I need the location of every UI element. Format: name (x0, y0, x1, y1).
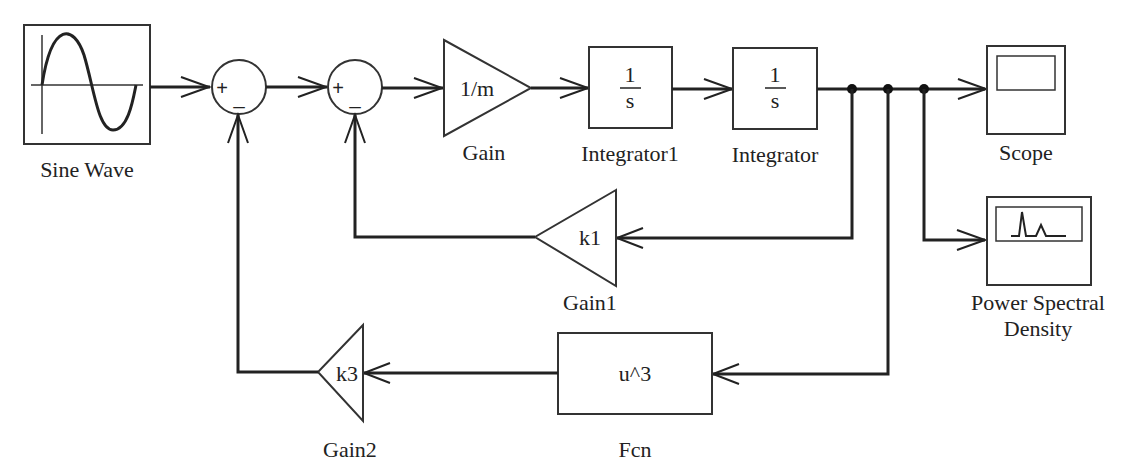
fcn-block[interactable]: u^3 (558, 333, 712, 414)
sum1-plus-sign: + (216, 77, 228, 99)
fcn-label: Fcn (619, 437, 652, 462)
fcn-expression: u^3 (619, 361, 651, 386)
wire-gain1-to-sum2 (345, 115, 535, 237)
scope-block[interactable] (987, 46, 1065, 134)
wire-integrator1-to-integrator (672, 79, 732, 99)
integrator1-numerator: 1 (625, 62, 636, 87)
block-diagram-canvas: Sine Wave + _ + _ 1/m Gain 1 (0, 0, 1138, 467)
wire-gain-to-integrator1 (531, 78, 588, 98)
psd-block[interactable] (987, 197, 1091, 285)
sum2-plus-sign: + (332, 77, 344, 99)
integrator-denominator: s (771, 88, 780, 113)
integrator-numerator: 1 (770, 62, 781, 87)
gain-label: Gain (463, 140, 506, 165)
sine-wave-block[interactable] (24, 25, 150, 144)
integrator-block[interactable]: 1 s (733, 48, 817, 129)
psd-label-line1: Power Spectral (971, 290, 1105, 315)
wire-gain2-to-sum1 (228, 115, 318, 372)
scope-label: Scope (999, 140, 1053, 165)
gain1-block[interactable]: k1 (535, 190, 616, 286)
sum2-minus-sign: _ (348, 86, 361, 109)
gain-value: 1/m (460, 76, 494, 101)
integrator1-denominator: s (626, 88, 635, 113)
sum2-block[interactable]: + _ (328, 60, 382, 114)
wire-sum1-to-sum2 (266, 77, 327, 97)
gain2-block[interactable]: k3 (318, 325, 363, 421)
gain1-value: k1 (579, 225, 601, 250)
integrator1-block[interactable]: 1 s (589, 47, 672, 128)
gain2-label: Gain2 (323, 437, 377, 462)
sum1-block[interactable]: + _ (212, 60, 266, 114)
psd-label-line2: Density (1004, 316, 1072, 341)
wire-sine-to-sum1 (150, 77, 210, 97)
gain-block[interactable]: 1/m (444, 40, 531, 136)
wire-sum2-to-gain (382, 78, 443, 98)
wire-integrator-to-scope (817, 79, 986, 99)
gain2-value: k3 (336, 361, 358, 386)
gain1-label: Gain1 (563, 290, 617, 315)
wire-fcn-to-gain2 (364, 363, 558, 383)
integrator-label: Integrator (732, 142, 819, 167)
wire-branch-to-psd (924, 89, 985, 250)
sine-wave-label: Sine Wave (40, 157, 134, 182)
sum1-minus-sign: _ (232, 86, 245, 109)
integrator1-label: Integrator1 (581, 141, 679, 166)
